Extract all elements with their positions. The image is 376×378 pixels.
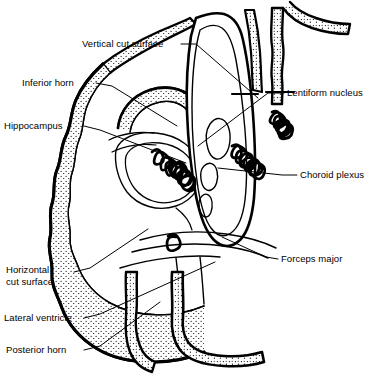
leader-forceps-major (222, 237, 278, 259)
label-posterior-horn: Posterior horn (6, 344, 66, 356)
label-lentiform-nucleus: Lentiform nucleus (287, 87, 363, 99)
hippocampus-body (109, 132, 201, 230)
label-forceps-major: Forceps major (281, 253, 342, 265)
label-horizontal-cut-surface: Horizontal cut surface (6, 264, 53, 287)
diagram-ink (49, 2, 350, 372)
label-inferior-horn: Inferior horn (22, 77, 74, 89)
label-vertical-cut-surface: Vertical cut surface (82, 38, 163, 50)
label-choroid-plexus: Choroid plexus (300, 169, 364, 181)
figure-canvas: Vertical cut surface Inferior horn Hippo… (0, 0, 376, 378)
vertical-cut-block (187, 13, 255, 246)
label-lateral-ventricle: Lateral ventricle (4, 312, 72, 324)
label-hippocampus: Hippocampus (4, 120, 63, 132)
